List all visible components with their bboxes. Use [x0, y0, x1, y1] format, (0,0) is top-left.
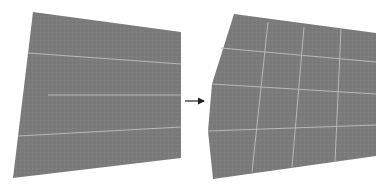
warped-grid-surface: [208, 14, 376, 179]
warped-grid: [208, 14, 376, 179]
warp-diagram: [0, 0, 388, 190]
source-quad: [13, 12, 181, 178]
diagram-svg: [0, 0, 388, 190]
